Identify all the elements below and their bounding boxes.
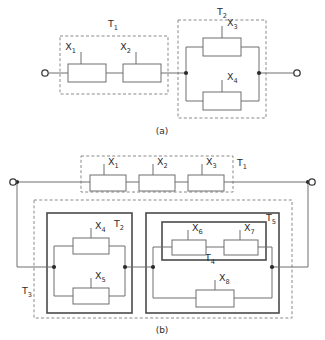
module-label-t2-a: T2 [216, 6, 227, 20]
panel-a: T1 T2 X1 X2 X3 X4 [42, 6, 300, 136]
component-block-x4-a [203, 92, 241, 110]
junction-dot-right-a [257, 71, 261, 75]
input-terminal-b [10, 179, 16, 185]
junction-dot-t2-right-b [123, 265, 127, 269]
wire-node-to-x3-a [186, 47, 203, 73]
junction-dot-t2-left-b [52, 265, 56, 269]
caption-b: (b) [156, 325, 169, 335]
wire-t2-top-in-b [54, 246, 73, 267]
component-label-x7-b: X7 [244, 222, 255, 236]
component-block-x5-b [73, 288, 109, 304]
wire-t5-bot-in-b [153, 267, 196, 298]
component-label-x8-b: X8 [219, 272, 230, 286]
component-block-x8-b [196, 290, 234, 307]
wire-t2-bot-in-b [54, 267, 73, 296]
component-label-x4-b: X4 [95, 220, 106, 234]
component-block-x6-b [172, 240, 206, 255]
input-terminal-a [42, 70, 48, 76]
component-label-x5-b: X5 [95, 270, 106, 284]
module-label-t1-b: T1 [236, 157, 247, 171]
component-label-x3-a: X3 [227, 17, 238, 31]
wire-left-feeder-b [17, 182, 54, 267]
wire-node-to-x4-a [186, 73, 203, 101]
module-label-t3-b: T3 [21, 285, 32, 299]
component-block-x2-b [139, 175, 175, 191]
component-block-x4-b [73, 238, 109, 254]
component-label-x3-b: X3 [206, 156, 217, 170]
diagram-canvas: T1 T2 X1 X2 X3 X4 [0, 0, 325, 340]
component-label-x2-a: X2 [120, 41, 131, 55]
component-block-x3-b [188, 175, 224, 191]
junction-dot-t5-left-b [151, 265, 155, 269]
output-terminal-b [309, 179, 315, 185]
component-block-x1-b [90, 175, 126, 191]
reliability-block-diagram: T1 T2 X1 X2 X3 X4 [0, 0, 325, 340]
wire-t5-top-out-b [258, 247, 272, 267]
component-block-x3-a [203, 38, 241, 56]
component-label-x4-a: X4 [227, 71, 238, 85]
module-label-t2-b: T2 [113, 218, 124, 232]
wire-t2-top-out-b [109, 246, 125, 267]
component-block-x2-a [123, 64, 161, 82]
caption-a: (a) [156, 126, 169, 136]
junction-dot-left-a [184, 71, 188, 75]
component-label-x2-b: X2 [157, 156, 168, 170]
component-block-x7-b [224, 240, 258, 255]
module-label-t1-a: T1 [107, 18, 118, 32]
component-label-x1-a: X1 [65, 41, 76, 55]
wire-x3-to-node-a [241, 47, 259, 73]
wire-x4-to-node-a [241, 73, 259, 101]
wire-t5-bot-out-b [234, 267, 272, 298]
component-label-x1-b: X1 [108, 156, 119, 170]
wire-t2-bot-out-b [109, 267, 125, 296]
output-terminal-a [294, 70, 300, 76]
component-block-x1-a [68, 64, 106, 82]
wire-right-feeder-b [272, 182, 308, 267]
panel-b: T1 T3 T2 T5 T4 [10, 156, 315, 335]
junction-dot-t5-right-b [270, 265, 274, 269]
component-label-x6-b: X6 [192, 222, 203, 236]
